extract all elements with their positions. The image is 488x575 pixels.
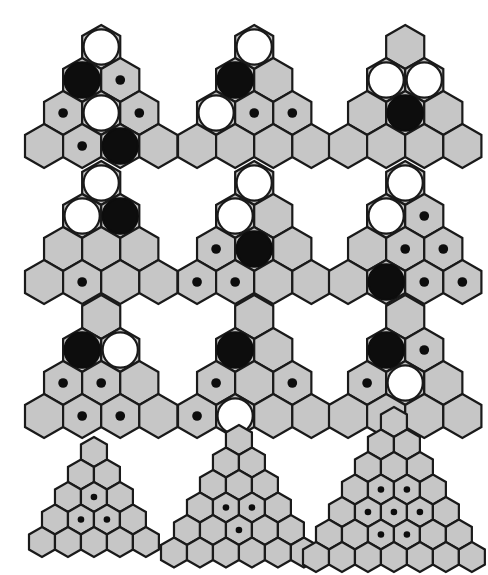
- hex-cell[interactable]: [213, 537, 239, 567]
- small-black-marker[interactable]: [104, 516, 111, 523]
- hex-cell[interactable]: [187, 537, 213, 567]
- small-black-marker[interactable]: [134, 108, 144, 118]
- small-black-marker[interactable]: [77, 141, 87, 151]
- small-black-marker[interactable]: [378, 531, 385, 538]
- large-white-stone[interactable]: [103, 332, 138, 367]
- small-black-marker[interactable]: [58, 378, 68, 388]
- small-black-marker[interactable]: [211, 244, 221, 254]
- small-black-marker[interactable]: [236, 527, 243, 534]
- large-black-stone[interactable]: [103, 198, 138, 233]
- small-black-marker[interactable]: [91, 494, 98, 501]
- hex-cell[interactable]: [329, 542, 355, 572]
- small-black-marker[interactable]: [192, 411, 202, 421]
- hex-cell[interactable]: [55, 527, 81, 557]
- large-black-stone[interactable]: [65, 62, 100, 97]
- large-black-stone[interactable]: [388, 95, 423, 130]
- large-white-stone[interactable]: [407, 62, 442, 97]
- hex-cell[interactable]: [29, 527, 55, 557]
- figure-r4c2: [158, 422, 320, 571]
- large-white-stone[interactable]: [218, 198, 253, 233]
- small-black-marker[interactable]: [419, 277, 429, 287]
- hex-cell[interactable]: [303, 542, 329, 572]
- small-black-marker[interactable]: [223, 504, 230, 511]
- large-white-stone[interactable]: [388, 165, 423, 200]
- small-black-marker[interactable]: [287, 378, 297, 388]
- small-black-marker[interactable]: [417, 509, 424, 516]
- small-black-marker[interactable]: [115, 411, 125, 421]
- small-black-marker[interactable]: [404, 486, 411, 493]
- large-white-stone[interactable]: [84, 165, 119, 200]
- hex-cell[interactable]: [161, 537, 187, 567]
- hex-cell[interactable]: [433, 542, 459, 572]
- small-black-marker[interactable]: [211, 378, 221, 388]
- figure-r2c1: [22, 158, 180, 307]
- large-white-stone[interactable]: [237, 165, 272, 200]
- hex-cell[interactable]: [25, 394, 63, 438]
- hex-cell[interactable]: [133, 527, 159, 557]
- small-black-marker[interactable]: [458, 277, 468, 287]
- small-black-marker[interactable]: [287, 108, 297, 118]
- hex-cell[interactable]: [407, 542, 433, 572]
- large-black-stone[interactable]: [237, 231, 272, 266]
- small-black-marker[interactable]: [365, 509, 372, 516]
- small-black-marker[interactable]: [77, 277, 87, 287]
- hex-cell[interactable]: [265, 537, 291, 567]
- large-black-stone[interactable]: [218, 332, 253, 367]
- hex-cell[interactable]: [355, 542, 381, 572]
- figure-r1c3: [326, 22, 484, 171]
- figure-r3c1: [22, 292, 180, 441]
- small-black-marker[interactable]: [192, 277, 202, 287]
- small-black-marker[interactable]: [249, 108, 259, 118]
- small-black-marker[interactable]: [400, 244, 410, 254]
- figure-r4c1: [26, 434, 162, 560]
- hex-cell[interactable]: [381, 542, 407, 572]
- hex-cell[interactable]: [81, 527, 107, 557]
- large-white-stone[interactable]: [237, 29, 272, 64]
- large-black-stone[interactable]: [369, 332, 404, 367]
- large-black-stone[interactable]: [218, 62, 253, 97]
- large-white-stone[interactable]: [65, 198, 100, 233]
- large-white-stone[interactable]: [84, 95, 119, 130]
- large-white-stone[interactable]: [369, 198, 404, 233]
- figure-r4c3: [300, 404, 488, 575]
- hex-cell[interactable]: [459, 542, 485, 572]
- large-black-stone[interactable]: [65, 332, 100, 367]
- hex-cell[interactable]: [239, 537, 265, 567]
- small-black-marker[interactable]: [115, 75, 125, 85]
- small-black-marker[interactable]: [58, 108, 68, 118]
- large-white-stone[interactable]: [84, 29, 119, 64]
- figure-r1c2: [175, 22, 333, 171]
- small-black-marker[interactable]: [362, 378, 372, 388]
- hex-cell[interactable]: [107, 527, 133, 557]
- small-black-marker[interactable]: [249, 504, 256, 511]
- figure-r1c1: [22, 22, 180, 171]
- figure-r2c3: [326, 158, 484, 307]
- small-black-marker[interactable]: [378, 486, 385, 493]
- large-white-stone[interactable]: [369, 62, 404, 97]
- small-black-marker[interactable]: [404, 531, 411, 538]
- small-black-marker[interactable]: [230, 277, 240, 287]
- small-black-marker[interactable]: [438, 244, 448, 254]
- small-black-marker[interactable]: [77, 411, 87, 421]
- small-black-marker[interactable]: [419, 211, 429, 221]
- small-black-marker[interactable]: [391, 509, 398, 516]
- figure-r2c2: [175, 158, 333, 307]
- small-black-marker[interactable]: [78, 516, 85, 523]
- large-white-stone[interactable]: [199, 95, 234, 130]
- small-black-marker[interactable]: [96, 378, 106, 388]
- large-white-stone[interactable]: [388, 365, 423, 400]
- small-black-marker[interactable]: [419, 345, 429, 355]
